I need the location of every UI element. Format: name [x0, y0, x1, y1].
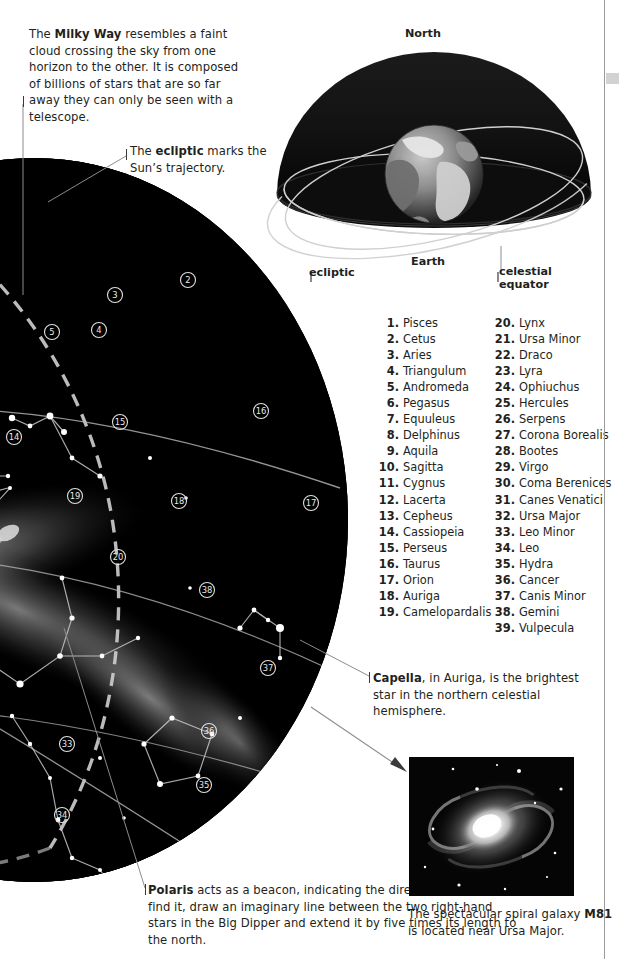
constellation-index-number: 36. — [493, 572, 515, 588]
constellation-index-number: 37. — [493, 588, 515, 604]
constellation-index-name: Lynx — [519, 315, 545, 331]
constellation-index-name: Perseus — [403, 540, 447, 556]
caption-capella: Capella, in Auriga, is the brightest sta… — [373, 670, 597, 720]
constellation-index-name: Triangulum — [403, 363, 466, 379]
constellation-index-name: Draco — [519, 347, 553, 363]
constellation-index-number: 9. — [377, 443, 399, 459]
constellation-marker-label: 3 — [112, 290, 117, 300]
constellation-index-row: 29.Virgo — [493, 459, 609, 475]
constellation-index-name: Auriga — [403, 588, 440, 604]
constellation-index-number: 33. — [493, 524, 515, 540]
caption-milky-way-body: resembles a faint cloud crossing the sky… — [29, 27, 238, 124]
caption-milky-way-lead: Milky Way — [55, 27, 122, 41]
constellation-index-name: Pisces — [403, 315, 438, 331]
constellation-index-row: 12.Lacerta — [377, 492, 493, 508]
constellation-index-name: Camelopardalis — [403, 604, 491, 620]
constellation-index-name: Aries — [403, 347, 432, 363]
constellation-index-row: 18.Auriga — [377, 588, 493, 604]
constellation-index-name: Cepheus — [403, 508, 453, 524]
constellation-index-number: 34. — [493, 540, 515, 556]
constellation-index-name: Delphinus — [403, 427, 460, 443]
constellation-index-name: Andromeda — [403, 379, 469, 395]
caption-polaris-lead: Polaris — [148, 883, 193, 897]
constellation-marker-label: 33 — [62, 739, 73, 749]
constellation-index-row: 31.Canes Venatici — [493, 492, 609, 508]
celestial-sphere-svg — [262, 22, 607, 292]
label-earth: Earth — [411, 255, 445, 268]
constellation-index-name: Cetus — [403, 331, 436, 347]
caption-milky-way: The Milky Way resembles a faint cloud cr… — [29, 26, 253, 126]
constellation-marker: 37 — [261, 661, 276, 676]
constellation-index-number: 13. — [377, 508, 399, 524]
constellation-index-name: Hydra — [519, 556, 553, 572]
caption-tick-milky-way — [23, 96, 24, 107]
constellation-index-number: 31. — [493, 492, 515, 508]
constellation-marker: 35 — [197, 778, 212, 793]
constellation-index-row: 27.Corona Borealis — [493, 427, 609, 443]
constellation-marker-label: 2 — [185, 275, 190, 285]
constellation-index-row: 21.Ursa Minor — [493, 331, 609, 347]
constellation-index: 1.Pisces2.Cetus3.Aries4.Triangulum5.Andr… — [377, 315, 609, 636]
m81-galaxy-svg — [409, 757, 574, 896]
caption-ecliptic-prefix: The — [130, 144, 156, 158]
constellation-index-row: 35.Hydra — [493, 556, 609, 572]
constellation-index-number: 28. — [493, 443, 515, 459]
constellation-index-name: Ophiuchus — [519, 379, 579, 395]
constellation-index-row: 36.Cancer — [493, 572, 609, 588]
constellation-marker-label: 35 — [199, 780, 210, 790]
constellation-index-number: 35. — [493, 556, 515, 572]
constellation-marker: 19 — [68, 489, 83, 504]
constellation-index-name: Serpens — [519, 411, 565, 427]
constellation-marker: 15 — [113, 415, 128, 430]
constellation-index-column-right: 20.Lynx21.Ursa Minor22.Draco23.Lyra24.Op… — [493, 315, 609, 636]
constellation-marker: 33 — [60, 737, 75, 752]
constellation-index-name: Virgo — [519, 459, 548, 475]
constellation-index-name: Gemini — [519, 604, 559, 620]
constellation-index-name: Coma Berenices — [519, 475, 611, 491]
constellation-index-number: 1. — [377, 315, 399, 331]
constellation-index-number: 11. — [377, 475, 399, 491]
label-celestial-equator: celestial equator — [499, 265, 569, 292]
constellation-index-number: 32. — [493, 508, 515, 524]
constellation-marker-label: 18 — [174, 496, 185, 506]
constellation-index-name: Pegasus — [403, 395, 450, 411]
constellation-index-row: 33.Leo Minor — [493, 524, 609, 540]
caption-tick-ecliptic — [126, 149, 127, 160]
constellation-index-name: Equuleus — [403, 411, 455, 427]
caption-m81-lead: M81 — [584, 907, 612, 921]
constellation-index-name: Canis Minor — [519, 588, 586, 604]
constellation-marker-label: 15 — [115, 417, 126, 427]
constellation-index-number: 6. — [377, 395, 399, 411]
constellation-marker-label: 17 — [306, 498, 317, 508]
constellation-index-number: 22. — [493, 347, 515, 363]
page-gutter-rule — [604, 0, 605, 959]
constellation-index-name: Aquila — [403, 443, 438, 459]
constellation-index-number: 3. — [377, 347, 399, 363]
caption-m81: The spectacular spiral galaxy M81 is loc… — [408, 906, 613, 939]
constellation-index-name: Canes Venatici — [519, 492, 603, 508]
constellation-index-name: Ursa Minor — [519, 331, 580, 347]
constellation-marker: 16 — [254, 404, 269, 419]
constellation-index-row: 38.Gemini — [493, 604, 609, 620]
caption-m81-prefix: The spectacular spiral galaxy — [408, 907, 584, 921]
constellation-index-row: 11.Cygnus — [377, 475, 493, 491]
constellation-index-number: 23. — [493, 363, 515, 379]
m81-galaxy-photo — [409, 757, 574, 896]
constellation-index-name: Leo — [519, 540, 539, 556]
constellation-marker: 17 — [304, 496, 319, 511]
constellation-index-number: 38. — [493, 604, 515, 620]
constellation-index-row: 39.Vulpecula — [493, 620, 609, 636]
constellation-index-name: Sagitta — [403, 459, 444, 475]
constellation-index-row: 17.Orion — [377, 572, 493, 588]
constellation-index-row: 26.Serpens — [493, 411, 609, 427]
constellation-marker: 4 — [92, 323, 107, 338]
constellation-index-number: 20. — [493, 315, 515, 331]
constellation-marker-label: 16 — [256, 406, 267, 416]
constellation-index-number: 19. — [377, 604, 399, 620]
constellation-index-row: 20.Lynx — [493, 315, 609, 331]
constellation-index-number: 26. — [493, 411, 515, 427]
constellation-marker: 34 — [55, 808, 70, 823]
constellation-index-row: 22.Draco — [493, 347, 609, 363]
constellation-index-number: 25. — [493, 395, 515, 411]
constellation-index-row: 23.Lyra — [493, 363, 609, 379]
